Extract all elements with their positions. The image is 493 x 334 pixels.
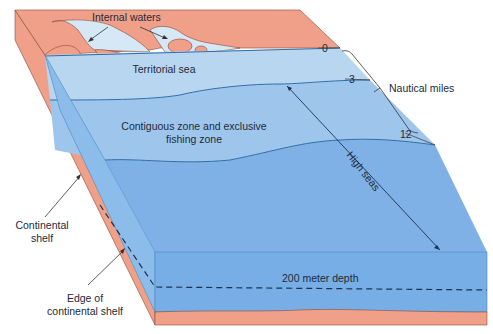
label-edge-1: Edge of	[67, 292, 103, 304]
label-internal-waters: Internal waters	[92, 11, 161, 23]
label-continental-shelf-2: shelf	[31, 232, 53, 244]
marker-3-visible: 3	[349, 73, 355, 85]
label-territorial-sea: Territorial sea	[132, 63, 195, 75]
marker-12: 12	[400, 128, 412, 140]
marker-0: 0	[322, 42, 328, 54]
label-contiguous-2: fishing zone	[166, 133, 222, 145]
label-edge-2: continental shelf	[47, 305, 123, 317]
label-200m-depth: 200 meter depth	[282, 272, 359, 284]
label-contiguous-1: Contiguous zone and exclusive	[121, 120, 267, 132]
edge-shelf-arrow	[88, 250, 124, 285]
maritime-zones-diagram: Internal waters Territorial sea Contiguo…	[0, 0, 493, 334]
label-continental-shelf-1: Continental	[15, 219, 68, 231]
seabed-front	[155, 309, 487, 325]
arrowhead-shelf	[76, 174, 81, 180]
label-nautical-miles: Nautical miles	[389, 82, 454, 94]
island-1	[168, 39, 192, 53]
continental-shelf-arrow	[45, 176, 80, 217]
